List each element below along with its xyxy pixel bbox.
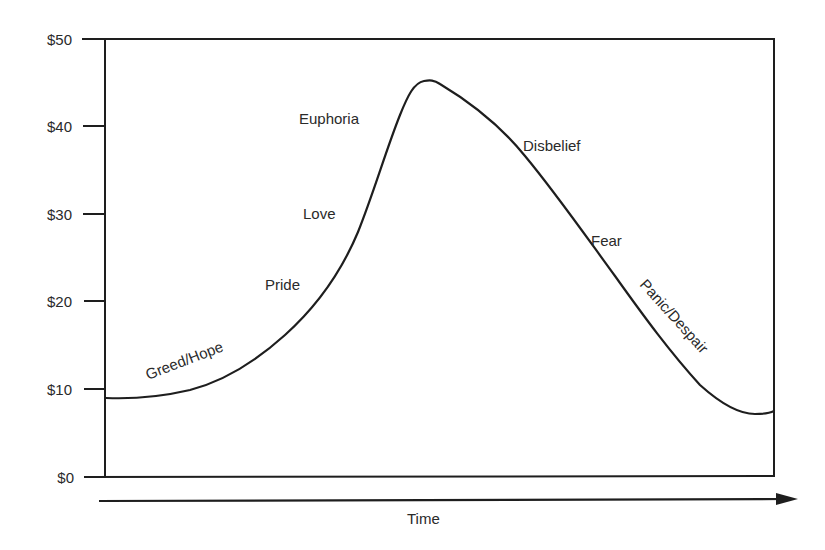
time-axis: Time (99, 493, 798, 527)
plot-frame (82, 39, 775, 477)
y-label-30: $30 (47, 206, 72, 223)
time-arrow-shaft (99, 499, 785, 501)
y-label-50: $50 (47, 31, 72, 48)
x-axis-title: Time (407, 510, 440, 527)
y-tick-labels: $50 $40 $30 $20 $10 $0 (47, 31, 74, 486)
y-label-0: $0 (57, 469, 74, 486)
label-pride: Pride (265, 276, 300, 293)
label-greed-hope: Greed/Hope (143, 338, 225, 383)
label-love: Love (303, 205, 336, 222)
phase-labels: Greed/Hope Pride Love Euphoria Disbelief… (143, 110, 712, 383)
label-euphoria: Euphoria (299, 110, 360, 127)
label-disbelief: Disbelief (523, 137, 581, 154)
y-ticks (83, 126, 105, 389)
x-axis-baseline (84, 476, 774, 477)
y-label-10: $10 (47, 381, 72, 398)
y-label-40: $40 (47, 118, 72, 135)
price-curve (106, 80, 774, 414)
market-cycle-chart: $50 $40 $30 $20 $10 $0 Greed/Hope Pride … (0, 0, 825, 550)
label-panic-despair: Panic/Despair (637, 276, 712, 357)
y-label-20: $20 (47, 293, 72, 310)
label-fear: Fear (591, 232, 622, 249)
arrow-right-icon (776, 493, 798, 505)
